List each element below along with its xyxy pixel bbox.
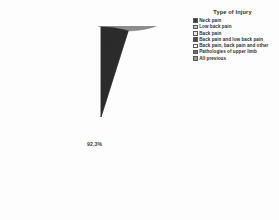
- legend-item-label: Pathologies of upper limb: [199, 49, 257, 54]
- legend-swatch-icon: [193, 31, 198, 36]
- legend-item-all-previous: All previous: [193, 56, 278, 61]
- legend-item-label: Neck pain: [199, 18, 221, 23]
- legend-item-back-pain-back-pain-and-other: Back pain, back pain and other: [193, 43, 278, 48]
- legend-swatch-icon: [193, 18, 198, 23]
- pie-chart: 92,3% 7,7%: [10, 26, 192, 208]
- legend-swatch-icon: [193, 37, 198, 42]
- legend-item-back-pain: Back pain: [193, 31, 278, 36]
- legend-item-label: Back pain, back pain and other: [199, 43, 268, 48]
- legend-swatch-icon: [193, 56, 198, 61]
- legend-item-neck-pain: Neck pain: [193, 18, 278, 23]
- legend-swatch-icon: [193, 44, 198, 49]
- legend-item-label: Back pain: [199, 31, 221, 36]
- legend-item-label: All previous: [199, 56, 226, 61]
- pie-svg: [10, 26, 192, 208]
- legend-swatch-icon: [193, 25, 198, 30]
- legend-item-pathologies-of-upper-limb: Pathologies of upper limb: [193, 49, 278, 54]
- legend-item-low-back-pain: Low back pain: [193, 24, 278, 29]
- legend-item-label: Low back pain: [199, 24, 231, 29]
- legend-title: Type of Injury: [193, 9, 278, 15]
- chart-figure: 92,3% 7,7% Type of Injury Neck pain Low …: [0, 0, 279, 220]
- pie-label-major: 92,3%: [87, 141, 102, 147]
- legend: Type of Injury Neck pain Low back pain B…: [193, 9, 278, 62]
- legend-swatch-icon: [193, 50, 198, 55]
- legend-item-back-pain-and-low-back-pain: Back pain and low back pain: [193, 37, 278, 42]
- pie-label-minor: 7,7%: [103, 41, 115, 47]
- legend-item-label: Back pain and low back pain: [199, 37, 263, 42]
